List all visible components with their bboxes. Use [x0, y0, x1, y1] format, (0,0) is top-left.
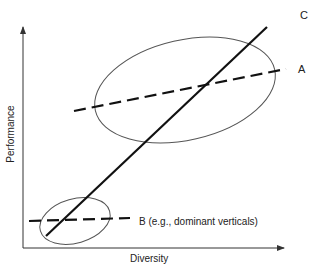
label-c: C	[300, 9, 308, 21]
label-b: B (e.g., dominant verticals)	[139, 216, 258, 227]
label-a: A	[298, 63, 306, 75]
diagram: C A B (e.g., dominant verticals) Diversi…	[0, 0, 316, 269]
line-c	[46, 27, 267, 236]
diagram-canvas: C A B (e.g., dominant verticals) Diversi…	[0, 0, 316, 269]
line-a	[74, 69, 286, 111]
cluster-ellipse-low	[34, 190, 115, 252]
y-axis-label: Performance	[5, 105, 16, 163]
x-axis-label: Diversity	[130, 253, 168, 264]
line-b	[29, 218, 130, 221]
